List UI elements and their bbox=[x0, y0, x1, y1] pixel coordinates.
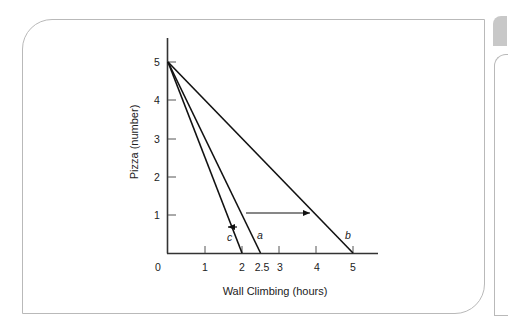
curve-b bbox=[168, 62, 353, 253]
y-tick-label: 2 bbox=[154, 171, 160, 183]
curve-label-c: c bbox=[227, 231, 233, 243]
curve-a bbox=[168, 62, 261, 253]
y-tick-label: 5 bbox=[154, 56, 160, 68]
y-tick-label: 4 bbox=[154, 94, 160, 106]
x-tick-label: 3 bbox=[277, 261, 283, 273]
x-axis-title: Wall Climbing (hours) bbox=[223, 285, 328, 297]
y-tick-label: 3 bbox=[154, 133, 160, 145]
x-tick-label: 2 bbox=[239, 261, 245, 273]
curve-label-b: b bbox=[345, 229, 351, 241]
curve-label-a: a bbox=[257, 229, 263, 241]
y-tick-label: 1 bbox=[154, 209, 160, 221]
x-tick-label: 5 bbox=[350, 261, 356, 273]
x-tick-label: 1 bbox=[202, 261, 208, 273]
x-ticks bbox=[205, 246, 353, 253]
y-ticks bbox=[168, 62, 176, 215]
x-tick-label: 4 bbox=[314, 261, 320, 273]
curve-c bbox=[168, 62, 242, 253]
x-tick-label: 2.5 bbox=[255, 261, 270, 273]
y-axis-title: Pizza (number) bbox=[128, 105, 140, 180]
origin-label: 0 bbox=[155, 261, 161, 273]
